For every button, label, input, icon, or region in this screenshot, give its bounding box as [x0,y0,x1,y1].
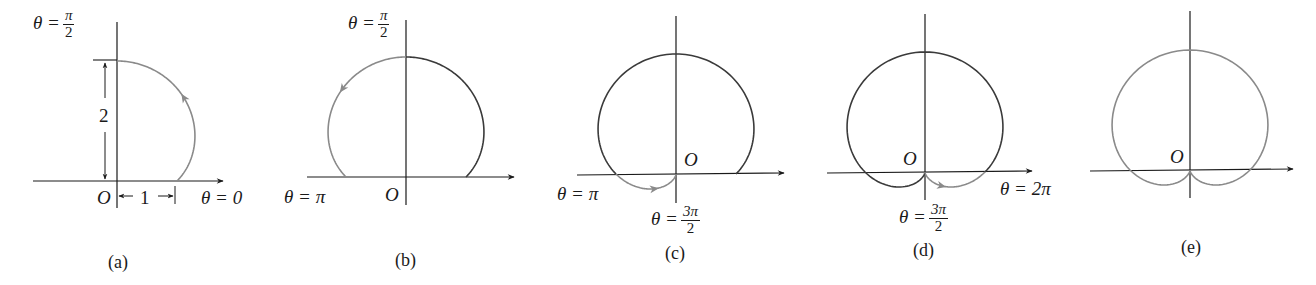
fraction: 3π2 [681,204,700,237]
origin-label: O [385,185,399,204]
denominator: 2 [378,25,390,41]
origin-label: O [1170,147,1184,166]
numerator: 3π [929,202,948,219]
label-theta-pi-over-2: θ =π2 [33,8,74,41]
denominator: 2 [685,221,697,237]
panel-b-axes [307,20,514,205]
polar-axis [827,171,1032,173]
panel-c-axes [577,16,784,203]
numerator: π [63,8,75,25]
curve-segment-b [406,57,484,177]
polar-axis [1090,169,1293,171]
caption-b: (b) [395,250,416,271]
label-theta-pi: θ = π [557,184,598,203]
curve-segment-c [616,174,676,189]
label-text: θ = [348,12,375,33]
cardioid-curves [117,50,1268,193]
label-theta-pi-over-2: θ =π2 [348,8,389,41]
fraction: 3π2 [929,202,948,235]
label-text: θ = [899,206,926,227]
polar-axis [577,173,784,175]
radius-label: 2 [99,106,109,125]
unit-label: 1 [140,188,150,207]
denominator: 2 [63,25,75,41]
numerator: 3π [681,204,700,221]
origin-label: O [97,188,111,207]
figure-canvas: θ =π2 2 O 1 θ = 0 (a) θ =π2 θ = π O (b) … [0,0,1316,285]
fraction: π2 [378,8,390,41]
panel-d-axes [827,14,1032,200]
label-theta-3pi-over-2: θ =3π2 [899,202,948,235]
denominator: 2 [933,219,945,235]
polar-curve-diagram [0,0,1316,285]
curve-segment-b [328,57,406,177]
caption-d: (d) [913,240,934,261]
caption-e: (e) [1181,237,1201,258]
caption-a: (a) [108,252,128,273]
origin-label: O [684,150,698,169]
direction-arrow-icon [178,92,190,104]
caption-c: (c) [665,243,685,264]
panel-a-axes [33,22,223,208]
fraction: π2 [63,8,75,41]
label-theta-pi: θ = π [284,187,325,206]
panel-e-axes [1090,11,1293,198]
label-text: θ = [33,12,60,33]
origin-label: O [903,149,917,168]
label-theta-2pi: θ = 2π [1000,179,1051,198]
numerator: π [378,8,390,25]
label-theta-0: θ = 0 [201,188,242,207]
label-text: θ = [651,208,678,229]
label-theta-3pi-over-2: θ =3π2 [651,204,700,237]
curve-segment-d [925,172,985,187]
curve-segment-a [117,61,195,181]
